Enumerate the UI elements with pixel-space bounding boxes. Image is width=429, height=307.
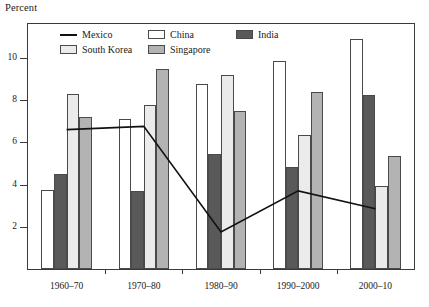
- x-axis-label: 1990–2000: [277, 281, 320, 291]
- y-axis-tick: [20, 185, 28, 186]
- legend-row: South KoreaSingapore: [60, 42, 310, 57]
- bar-china: [196, 84, 209, 269]
- y-axis-tick-label: 10: [2, 53, 17, 63]
- legend-box-swatch-icon: [236, 30, 253, 39]
- y-axis-tick-label: 2: [2, 222, 17, 232]
- x-axis-label: 1970–80: [127, 281, 160, 291]
- legend-box-swatch-icon: [60, 45, 77, 54]
- legend-line-swatch-icon: [60, 30, 77, 39]
- bar-china: [350, 39, 363, 269]
- x-axis-label: 1980–90: [204, 281, 237, 291]
- y-axis-tick-label: 6: [2, 138, 17, 148]
- bar-india: [363, 95, 376, 269]
- x-axis-tick: [182, 269, 183, 274]
- chart-legend: MexicoChinaIndiaSouth KoreaSingapore: [60, 27, 310, 57]
- bar-china: [273, 61, 286, 269]
- x-axis-label: 1960–70: [50, 281, 83, 291]
- bar-south-korea: [221, 75, 234, 269]
- bar-singapore: [156, 69, 169, 269]
- legend-item-south-korea: South Korea: [60, 42, 148, 57]
- y-axis-tick-label: 8: [2, 95, 17, 105]
- bar-india: [208, 154, 221, 269]
- bar-india: [54, 174, 67, 269]
- bar-china: [41, 190, 54, 269]
- x-axis-tick: [105, 269, 106, 274]
- y-axis-tick: [20, 142, 28, 143]
- bar-south-korea: [67, 94, 80, 269]
- legend-box-swatch-icon: [148, 30, 165, 39]
- y-axis-title: Percent: [5, 2, 37, 13]
- x-axis-tick: [337, 269, 338, 274]
- y-axis-tick: [20, 227, 28, 228]
- bar-singapore: [234, 111, 247, 269]
- legend-label: South Korea: [82, 44, 132, 55]
- bar-line-chart: Percent 246810 1960–701970–801980–901990…: [0, 0, 429, 307]
- legend-item-singapore: Singapore: [148, 42, 236, 57]
- bar-india: [286, 167, 299, 269]
- bar-singapore: [388, 156, 401, 269]
- legend-label: India: [258, 29, 279, 40]
- bar-china: [119, 119, 132, 269]
- legend-label: China: [170, 29, 194, 40]
- legend-item-mexico: Mexico: [60, 27, 148, 42]
- y-axis-tick: [20, 100, 28, 101]
- y-axis-tick-label: 4: [2, 180, 17, 190]
- bar-south-korea: [375, 186, 388, 269]
- bar-singapore: [311, 92, 324, 269]
- legend-label: Mexico: [82, 29, 113, 40]
- legend-row: MexicoChinaIndia: [60, 27, 310, 42]
- legend-box-swatch-icon: [148, 45, 165, 54]
- legend-item-china: China: [148, 27, 236, 42]
- legend-item-india: India: [236, 27, 310, 42]
- y-axis-tick: [20, 58, 28, 59]
- bar-south-korea: [298, 135, 311, 269]
- x-axis-tick: [260, 269, 261, 274]
- bar-singapore: [79, 117, 92, 269]
- bar-south-korea: [144, 105, 157, 269]
- x-axis-label: 2000–10: [359, 281, 392, 291]
- bar-india: [131, 191, 144, 269]
- legend-label: Singapore: [170, 44, 211, 55]
